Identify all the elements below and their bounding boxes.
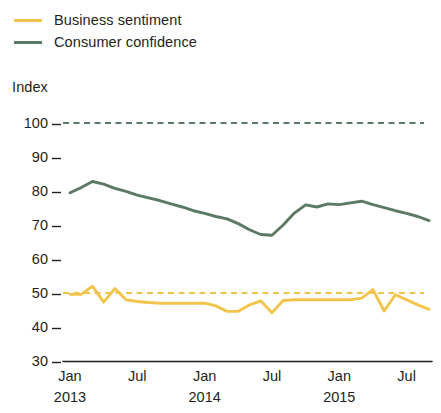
data-series-line	[70, 286, 429, 313]
x-axis-tick-month: Jul	[397, 368, 416, 384]
x-axis-tick-month: Jan	[58, 368, 81, 384]
y-axis-tick-labels: 10090807060504030	[24, 115, 48, 369]
x-axis-tick-year: 2014	[189, 389, 221, 405]
x-axis-tick-labels: Jan2013JulJan2014JulJan2015Jul	[54, 368, 416, 405]
x-axis-tick-month: Jan	[328, 368, 351, 384]
y-axis-tick-label: 30	[32, 353, 48, 369]
x-axis-tick-month: Jan	[193, 368, 216, 384]
y-axis-tick-label: 90	[32, 149, 48, 165]
y-axis-tick-label: 40	[32, 319, 48, 335]
y-axis-tick-label: 100	[24, 115, 48, 131]
chart-plot-area: 10090807060504030 Jan2013JulJan2014JulJa…	[0, 0, 441, 413]
reference-lines	[63, 123, 424, 293]
y-axis-tick-label: 80	[32, 183, 48, 199]
y-axis-tick-label: 70	[32, 217, 48, 233]
y-axis-tick-label: 50	[32, 285, 48, 301]
x-axis-tick-year: 2015	[323, 389, 355, 405]
y-axis-tick-label: 60	[32, 251, 48, 267]
x-axis-tick-year: 2013	[54, 389, 86, 405]
x-axis-tick-month: Jul	[263, 368, 282, 384]
x-axis-tick-month: Jul	[128, 368, 147, 384]
data-series-lines	[70, 181, 429, 312]
y-axis-tick-marks	[52, 125, 61, 363]
chart-container: Business sentiment Consumer confidence I…	[0, 0, 441, 413]
data-series-line	[70, 181, 429, 235]
